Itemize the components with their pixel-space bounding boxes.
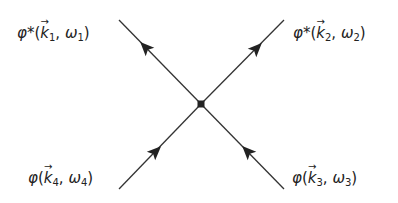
- leg-2-label: φ*(k2, ω2): [293, 26, 366, 43]
- vector-k: k: [40, 26, 49, 41]
- leg-1-line: [119, 20, 201, 104]
- leg-1-label: φ*(k1, ω1): [17, 26, 90, 43]
- leg-2-line: [201, 20, 284, 104]
- leg-4-label: φ(k4, ω4): [28, 171, 93, 188]
- vector-k: k: [308, 171, 317, 186]
- vector-k: k: [316, 26, 325, 41]
- leg-3-label: φ(k3, ω3): [292, 171, 357, 188]
- leg-4-line: [119, 104, 201, 189]
- vector-k: k: [44, 171, 53, 186]
- vertex-dot: [198, 101, 205, 108]
